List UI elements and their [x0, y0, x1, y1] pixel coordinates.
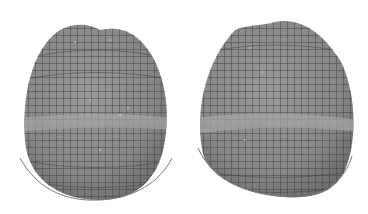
- right-shell-mesh: [184, 0, 368, 214]
- left-shell-mesh: [0, 0, 184, 214]
- figure: [0, 0, 368, 214]
